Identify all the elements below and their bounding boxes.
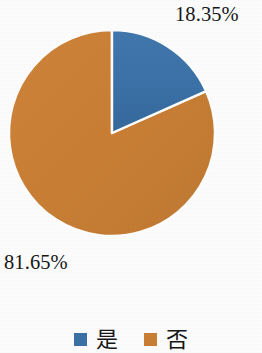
pie-chart: 18.35% 81.65% — [0, 0, 262, 300]
data-label-yes: 18.35% — [175, 4, 239, 25]
legend-swatch-yes-icon — [74, 333, 87, 346]
legend-label-no: 否 — [166, 329, 188, 351]
legend-swatch-no-icon — [144, 333, 157, 346]
legend-label-yes: 是 — [96, 329, 118, 351]
chart-legend: 是 否 — [0, 326, 262, 353]
legend-item-yes[interactable]: 是 — [74, 329, 118, 351]
data-label-no: 81.65% — [4, 252, 68, 273]
legend-item-no[interactable]: 否 — [144, 329, 188, 351]
